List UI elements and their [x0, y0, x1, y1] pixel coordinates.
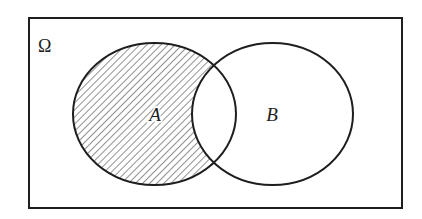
universe-label: Ω: [38, 36, 51, 56]
set-b-label: B: [266, 104, 278, 125]
venn-diagram: Ω A B: [0, 0, 422, 219]
set-a-label: A: [147, 104, 161, 125]
